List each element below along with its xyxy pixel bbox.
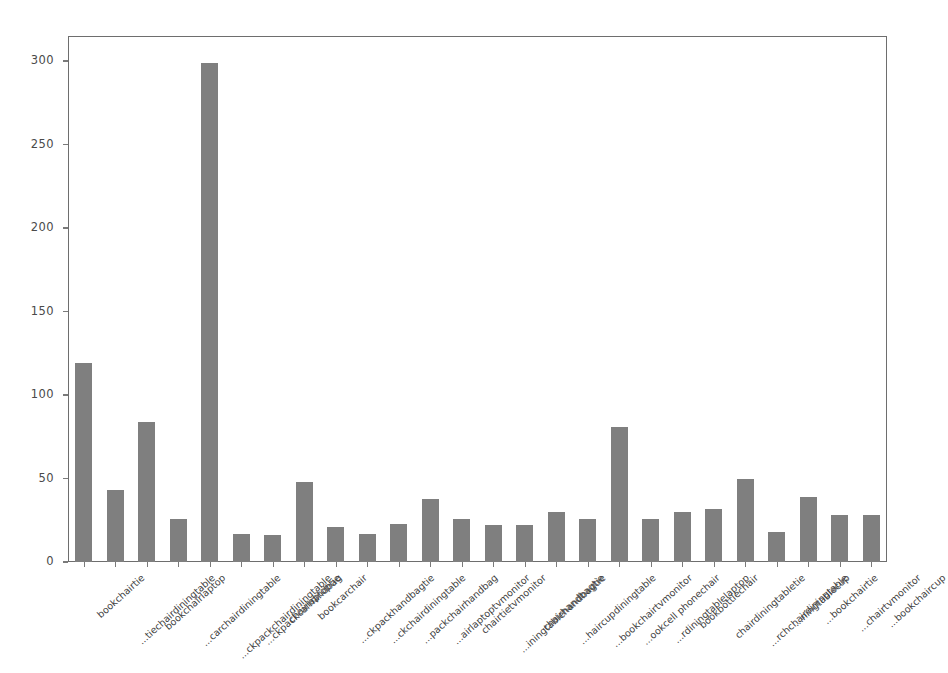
y-axis-tick-label: 250: [31, 137, 54, 151]
bar: [579, 519, 596, 562]
bar: [863, 515, 880, 562]
bar: [138, 422, 155, 562]
y-axis-tick-label: 150: [31, 304, 54, 318]
y-axis-tick-label: 100: [31, 387, 54, 401]
bar: [831, 515, 848, 562]
bar: [201, 63, 218, 562]
x-axis-tick-label-text: bookchairtie: [95, 572, 147, 620]
bar: [422, 499, 439, 562]
bar: [548, 512, 565, 562]
bar-series: [68, 36, 887, 562]
y-axis-tick-label: 200: [31, 220, 54, 234]
bar: [642, 519, 659, 562]
x-axis-tick-label: bookchairtie: [95, 572, 147, 620]
bar: [800, 497, 817, 562]
bar: [170, 519, 187, 562]
bar: [264, 535, 281, 562]
bar: [485, 525, 502, 562]
bar: [390, 524, 407, 562]
y-axis-tick-label: 300: [31, 53, 54, 67]
bar: [233, 534, 250, 562]
bar: [107, 490, 124, 562]
bar: [611, 427, 628, 562]
bar: [737, 479, 754, 562]
bar: [453, 519, 470, 562]
bar: [674, 512, 691, 562]
bar: [359, 534, 376, 562]
bar: [768, 532, 785, 562]
bar: [296, 482, 313, 562]
x-axis-tick-labels: bookchairtie...tiechairdiningtablebookch…: [0, 562, 923, 662]
bar: [516, 525, 533, 562]
bar: [705, 509, 722, 562]
bar: [327, 527, 344, 562]
bar: [75, 363, 92, 562]
y-axis-tick-label: 50: [39, 471, 54, 485]
